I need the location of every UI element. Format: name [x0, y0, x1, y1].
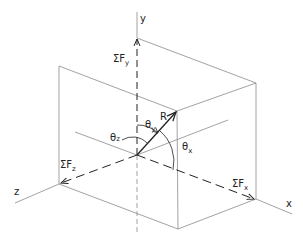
sum-fz-label: ΣFz [60, 159, 76, 173]
force-diagram: y x z ΣFy ΣFx ΣFz R θy θx θz [0, 0, 303, 240]
theta-y-label: θy [145, 119, 155, 133]
y-axis-label: y [140, 13, 146, 24]
resultant-r-label: R [160, 111, 167, 122]
resultant-r-arrow [137, 112, 176, 155]
force-components [61, 39, 254, 199]
x-axis-label: x [286, 198, 292, 209]
sum-fx-label: ΣFx [232, 178, 248, 192]
z-axis [15, 184, 59, 203]
projection-line [75, 132, 137, 155]
axes [15, 12, 292, 232]
theta-x-arc [160, 131, 174, 170]
sum-fx-arrow [137, 155, 254, 199]
sum-fy-label: ΣFy [113, 53, 129, 67]
theta-x-label: θx [182, 141, 192, 155]
box-edge [177, 83, 256, 111]
box-edge [59, 184, 178, 229]
z-axis-label: z [14, 186, 19, 197]
theta-z-label: θz [110, 132, 120, 143]
theta-z-arc [122, 137, 147, 143]
angle-arcs [122, 125, 174, 170]
box-edge [137, 38, 256, 83]
box-edge [178, 199, 256, 229]
parallelepiped-box [59, 38, 256, 229]
